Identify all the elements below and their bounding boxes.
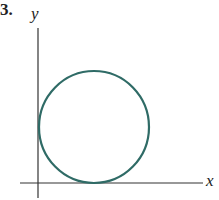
- graph: [0, 0, 219, 200]
- circle: [39, 71, 149, 183]
